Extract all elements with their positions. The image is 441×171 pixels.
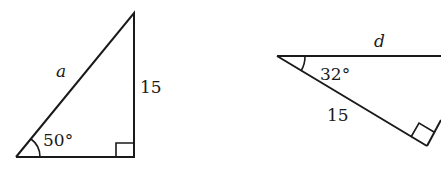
left-angle-label: 50°: [43, 130, 73, 150]
right-hypotenuse-label: 15: [327, 105, 349, 125]
right-angle-label: 32°: [320, 64, 350, 84]
right-angle-arc: [301, 56, 305, 71]
right-third-side: [427, 120, 441, 146]
left-hypotenuse-label: a: [56, 61, 66, 81]
left-angle-arc: [31, 139, 40, 157]
left-right-angle-marker: [116, 143, 134, 157]
left-triangle: [16, 13, 134, 157]
right-top-side-label: d: [374, 31, 385, 51]
left-triangle-outline: [16, 13, 134, 157]
diagram-canvas: a 15 50° d 32° 15: [0, 0, 441, 171]
right-triangle: [277, 56, 441, 146]
right-right-angle-marker: [411, 123, 434, 137]
left-side-label: 15: [140, 77, 162, 97]
right-hypotenuse-side: [277, 56, 427, 146]
